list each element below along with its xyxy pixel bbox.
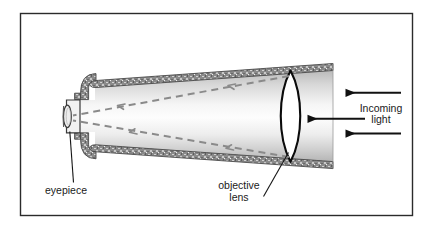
tube-shoulder-top: [75, 93, 81, 99]
eyepiece-barrel: [63, 100, 80, 133]
tube-shoulder-bottom: [75, 133, 81, 139]
eyepiece-leader-line: [70, 132, 74, 183]
incoming-light-label-line2: light: [371, 113, 390, 125]
incoming-light-label-line1: Incoming: [360, 102, 403, 114]
objective-lens-label-line2: lens: [229, 191, 248, 203]
figure-root: eyepiece objective lens Incoming light: [0, 0, 433, 231]
telescope-diagram: eyepiece objective lens Incoming light: [0, 0, 433, 231]
eyepiece-label: eyepiece: [45, 184, 87, 196]
objective-lens-label-line1: objective: [218, 179, 260, 191]
eyepiece-rim: [63, 106, 64, 127]
